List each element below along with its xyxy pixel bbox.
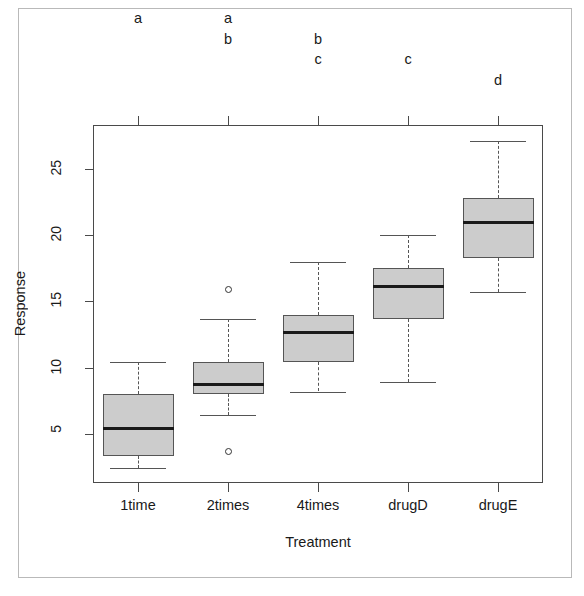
- significance-letter: a: [108, 8, 168, 29]
- significance-letter: a: [198, 8, 258, 29]
- plot-area: 5101520251timea2timesab4timesbcdrugDcdru…: [93, 125, 543, 483]
- x-axis-tick-mark: [138, 483, 139, 492]
- box-iqr-rect: [463, 198, 534, 258]
- x-axis-tick-label-drugE: drugE: [453, 497, 543, 513]
- y-axis-tick-mark: [85, 301, 93, 302]
- x-axis-tick-mark: [498, 483, 499, 492]
- x-axis-tick-label-2times: 2times: [183, 497, 273, 513]
- x-axis-tick-label-drugD: drugD: [363, 497, 453, 513]
- y-axis-tick-mark: [85, 169, 93, 170]
- x-axis-tick-label-1time: 1time: [93, 497, 183, 513]
- x-axis-tick-mark: [228, 483, 229, 492]
- boxplot-group-drugE: [93, 125, 543, 483]
- top-axis-tick-mark: [318, 116, 319, 125]
- significance-letter: c: [288, 49, 348, 70]
- significance-letter: b: [198, 29, 258, 50]
- upper-whisker: [498, 141, 499, 198]
- y-axis-tick-mark: [85, 434, 93, 435]
- boxplot-figure: Response Treatment 5101520251timea2times…: [0, 0, 584, 596]
- top-axis-tick-mark: [228, 116, 229, 125]
- y-axis-tick-mark: [85, 368, 93, 369]
- median-line: [463, 221, 534, 224]
- significance-letters-1time: a: [108, 8, 168, 29]
- y-axis-tick-label: 15: [49, 292, 79, 308]
- x-axis-title: Treatment: [93, 534, 543, 550]
- x-axis-tick-mark: [318, 483, 319, 492]
- y-axis-tick-label: 5: [49, 425, 79, 433]
- significance-letters-2times: ab: [198, 8, 258, 49]
- top-axis-tick-mark: [408, 116, 409, 125]
- significance-letter: d: [468, 70, 528, 91]
- y-axis-title-text: Response: [12, 271, 28, 336]
- x-axis-tick-label-4times: 4times: [273, 497, 363, 513]
- x-axis-tick-mark: [408, 483, 409, 492]
- top-axis-tick-mark: [498, 116, 499, 125]
- significance-letters-drugD: c: [378, 49, 438, 70]
- lower-whisker-cap: [470, 292, 527, 293]
- y-axis-tick-label: 20: [49, 226, 79, 242]
- top-axis-tick-mark: [138, 116, 139, 125]
- significance-letter: b: [288, 29, 348, 50]
- y-axis-tick-label: 10: [49, 359, 79, 375]
- significance-letters-4times: bc: [288, 29, 348, 70]
- y-axis-tick-mark: [85, 235, 93, 236]
- upper-whisker-cap: [470, 141, 527, 142]
- y-axis-title: Response: [8, 125, 32, 483]
- significance-letters-drugE: d: [468, 70, 528, 91]
- significance-letter: c: [378, 49, 438, 70]
- lower-whisker: [498, 258, 499, 292]
- y-axis-tick-label: 25: [49, 160, 79, 176]
